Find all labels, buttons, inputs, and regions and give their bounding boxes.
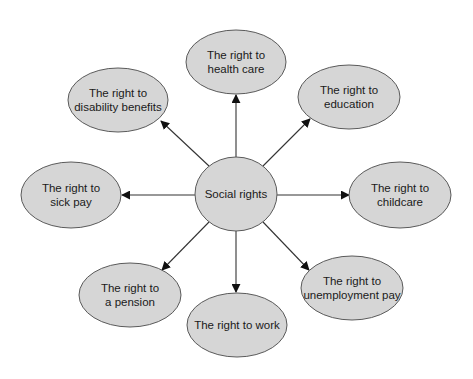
node-pension-ellipse bbox=[79, 263, 181, 327]
arrow-unemployment-pay bbox=[263, 222, 309, 270]
node-childcare-label: The right to bbox=[371, 182, 429, 194]
node-sick-pay-label: The right to bbox=[42, 182, 100, 194]
nodes-layer: Social rightsThe right tohealth careThe … bbox=[21, 30, 451, 357]
node-education-label: education bbox=[324, 98, 374, 110]
node-unemployment-pay: The right tounemployment pay bbox=[301, 256, 403, 320]
node-childcare-label: childcare bbox=[377, 196, 423, 208]
arrow-pension bbox=[162, 222, 209, 270]
node-childcare: The right tochildcare bbox=[349, 162, 451, 228]
node-disability-benefits-ellipse bbox=[68, 68, 168, 132]
arrow-education bbox=[263, 119, 310, 166]
node-disability-benefits: The right todisability benefits bbox=[68, 68, 168, 132]
node-work-label: The right to work bbox=[194, 319, 280, 331]
center-node-social-rights-label: Social rights bbox=[205, 188, 268, 200]
node-pension-label: The right to bbox=[101, 282, 159, 294]
node-health-care-ellipse bbox=[186, 30, 286, 94]
node-work: The right to work bbox=[187, 293, 287, 357]
node-pension-label: a pension bbox=[105, 296, 155, 308]
node-pension: The right toa pension bbox=[79, 263, 181, 327]
node-unemployment-pay-ellipse bbox=[301, 256, 403, 320]
node-health-care-label: The right to bbox=[207, 49, 265, 61]
node-unemployment-pay-label: The right to bbox=[323, 275, 381, 287]
node-health-care-label: health care bbox=[208, 63, 265, 75]
node-sick-pay-ellipse bbox=[21, 162, 121, 228]
node-disability-benefits-label: The right to bbox=[89, 87, 147, 99]
node-disability-benefits-label: disability benefits bbox=[74, 101, 162, 113]
social-rights-diagram: Social rightsThe right tohealth careThe … bbox=[0, 0, 473, 379]
node-health-care: The right tohealth care bbox=[186, 30, 286, 94]
node-education-ellipse bbox=[298, 65, 400, 129]
center-node-social-rights: Social rights bbox=[195, 157, 277, 231]
node-education-label: The right to bbox=[320, 84, 378, 96]
node-sick-pay-label: sick pay bbox=[50, 196, 92, 208]
node-sick-pay: The right tosick pay bbox=[21, 162, 121, 228]
node-childcare-ellipse bbox=[349, 162, 451, 228]
node-unemployment-pay-label: unemployment pay bbox=[303, 289, 400, 301]
arrow-disability-benefits bbox=[161, 121, 209, 166]
node-education: The right toeducation bbox=[298, 65, 400, 129]
